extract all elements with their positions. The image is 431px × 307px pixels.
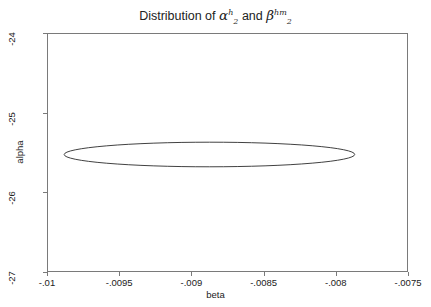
x-tick-mark [336,272,337,276]
beta-glyph: β [266,7,274,23]
x-tick-mark [408,272,409,276]
chart-title: Distribution of αh2 and βhm2 [0,7,431,24]
chart-title-conjunction: and [238,9,266,23]
x-tick-mark [119,272,120,276]
chart-title-prefix: Distribution of [139,9,219,23]
x-tick-label: -.0095 [89,277,149,289]
x-tick-label: -.01 [17,277,77,289]
y-tick-label: -26 [6,191,18,205]
y-tick-mark [43,33,47,34]
x-tick-mark [264,272,265,276]
alpha-glyph: α [219,7,228,23]
chart-title-alpha-symbol: αh2 [219,7,238,23]
x-tick-mark [47,272,48,276]
x-tick-label: -.0075 [378,277,431,289]
y-axis-title: alpha [14,140,26,163]
x-tick-label: -.0085 [234,277,294,289]
alpha-superscript: h [228,8,233,17]
y-tick-label: -24 [6,32,18,46]
x-tick-label: -.009 [161,277,221,289]
confidence-ellipse-group [64,142,355,167]
y-tick-mark [43,113,47,114]
chart-container: Distribution of αh2 and βhm2 -.01-.0095-… [0,0,431,307]
y-tick-label: -27 [6,271,18,285]
beta-subscript: 2 [287,17,292,26]
x-tick-mark [191,272,192,276]
x-axis-title: beta [0,289,431,301]
data-layer [47,33,408,272]
beta-superscript: hm [274,8,287,17]
y-tick-label: -25 [6,112,18,126]
chart-title-beta-symbol: βhm2 [266,7,292,23]
x-tick-label: -.008 [306,277,366,289]
y-tick-mark [43,192,47,193]
confidence-ellipse [64,142,355,167]
y-tick-mark [43,272,47,273]
